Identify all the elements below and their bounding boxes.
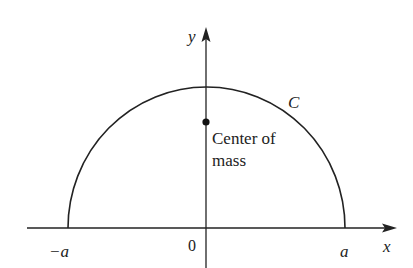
semicircle-diagram: y x 0 −a a C Center of mass [0,0,413,268]
curve-label: C [288,93,300,112]
center-of-mass-label-line2: mass [212,151,246,170]
origin-label: 0 [188,237,196,254]
center-of-mass-point [202,118,209,125]
x-axis-label: x [382,237,391,256]
y-axis-label: y [186,27,196,46]
center-of-mass-label-line1: Center of [212,129,276,148]
neg-a-label: −a [49,242,69,261]
pos-a-label: a [340,242,349,261]
